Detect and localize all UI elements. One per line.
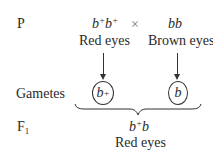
parent-right-phenotype: Brown eyes <box>148 33 213 49</box>
arrow-left-icon <box>103 53 104 75</box>
f1-phenotype: Red eyes <box>115 135 166 151</box>
brace-icon <box>74 103 202 117</box>
f1-genotype: b+b <box>129 119 149 135</box>
gametes-label: Gametes <box>16 86 65 102</box>
parent-left-phenotype: Red eyes <box>79 33 130 49</box>
parent-right-genotype: bb <box>168 16 182 32</box>
gamete-left: b+ <box>92 81 114 105</box>
gamete-right: b <box>168 81 188 105</box>
arrow-right-icon <box>177 53 178 75</box>
p-generation-label: P <box>17 16 25 32</box>
parent-left-genotype: b+b+ <box>92 16 118 32</box>
f1-generation-label: F1 <box>17 119 29 135</box>
cross-symbol: × <box>131 17 139 33</box>
